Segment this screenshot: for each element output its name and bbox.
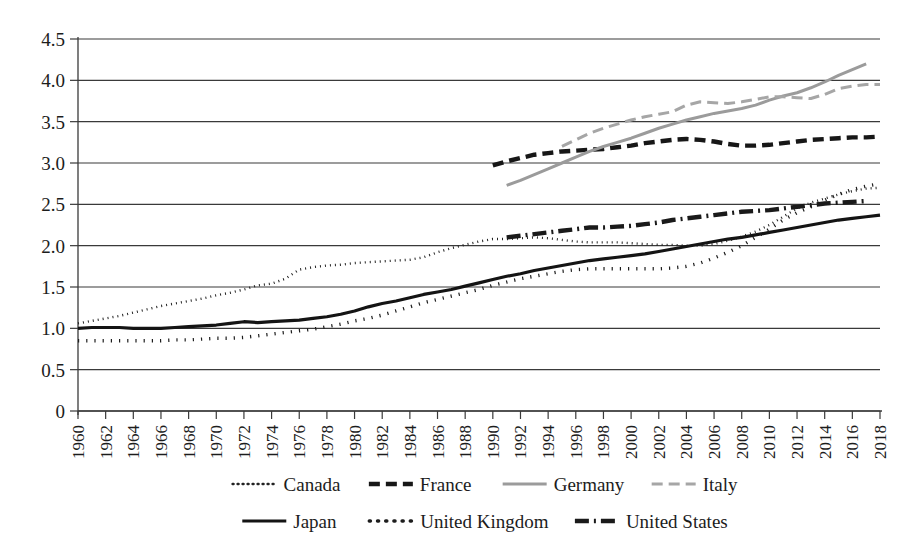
y-tick-label: 0.5: [41, 360, 65, 381]
x-tick-label: 1980: [346, 425, 365, 459]
x-tick-label: 1966: [152, 425, 171, 459]
y-tick-label: 2.5: [41, 194, 65, 215]
x-tick-label: 2006: [705, 425, 724, 459]
x-tick-label: 1960: [69, 425, 88, 459]
series-line-united-kingdom: [78, 184, 880, 341]
legend-label-italy: Italy: [703, 474, 738, 495]
legend-label-canada: Canada: [284, 474, 342, 495]
legend-label-germany: Germany: [554, 474, 625, 495]
x-tick-label: 1982: [373, 425, 392, 459]
y-tick-label: 4.5: [41, 29, 65, 50]
x-tick-label: 2010: [760, 425, 779, 459]
x-tick-label: 1986: [429, 425, 448, 459]
series-line-japan: [78, 215, 880, 328]
series-line-canada: [78, 188, 880, 324]
y-tick-label: 3.5: [41, 112, 65, 133]
x-tick-label: 1972: [235, 425, 254, 459]
x-axis-group: 1960196219641966196819701972197419761978…: [69, 411, 890, 459]
x-tick-label: 2016: [843, 425, 862, 459]
x-tick-label: 2018: [871, 425, 890, 459]
x-tick-label: 1988: [456, 425, 475, 459]
x-tick-label: 2000: [622, 425, 641, 459]
y-tick-label: 1.5: [41, 277, 65, 298]
x-tick-label: 2004: [677, 425, 696, 460]
x-tick-label: 1990: [484, 425, 503, 459]
x-tick-label: 2014: [816, 425, 835, 460]
line-chart-figure: 00.51.01.52.02.53.03.54.04.5 19601962196…: [0, 0, 904, 551]
series-line-germany: [507, 64, 867, 186]
gridlines-group: [78, 39, 880, 411]
x-tick-label: 1992: [511, 425, 530, 459]
x-tick-label: 1994: [539, 425, 558, 460]
legend-group: CanadaFranceGermanyItalyJapanUnited King…: [233, 474, 738, 532]
legend-label-japan: Japan: [293, 511, 337, 532]
chart-container: 00.51.01.52.02.53.03.54.04.5 19601962196…: [0, 0, 904, 551]
y-tick-label: 2.0: [41, 236, 65, 257]
series-group: [78, 64, 880, 341]
legend-label-france: France: [420, 474, 472, 495]
y-tick-label: 0: [56, 401, 66, 422]
y-tick-label: 4.0: [41, 70, 65, 91]
x-tick-label: 1962: [97, 425, 116, 459]
series-line-united-states: [507, 201, 867, 237]
x-tick-label: 2008: [733, 425, 752, 459]
series-line-france: [493, 137, 880, 166]
x-tick-label: 1964: [124, 425, 143, 460]
y-axis-group: 00.51.01.52.02.53.03.54.04.5: [41, 29, 78, 422]
x-tick-label: 2012: [788, 425, 807, 459]
legend-label-united-kingdom: United Kingdom: [420, 511, 548, 532]
x-tick-label: 1968: [180, 425, 199, 459]
legend-label-united-states: United States: [626, 511, 728, 532]
x-tick-label: 1984: [401, 425, 420, 460]
x-tick-label: 1970: [207, 425, 226, 459]
x-tick-label: 1996: [567, 425, 586, 459]
x-tick-label: 1998: [594, 425, 613, 459]
x-tick-label: 2002: [650, 425, 669, 459]
x-tick-label: 1978: [318, 425, 337, 459]
y-tick-label: 1.0: [41, 318, 65, 339]
x-tick-label: 1976: [290, 425, 309, 459]
y-tick-label: 3.0: [41, 153, 65, 174]
x-tick-label: 1974: [263, 425, 282, 460]
